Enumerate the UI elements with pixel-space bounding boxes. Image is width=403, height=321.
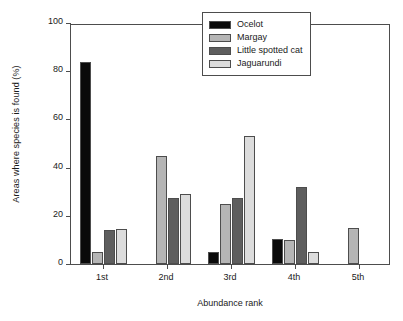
bar-chart-figure: Areas where species is found (%) 0204060… [0,0,403,321]
legend-swatch-icon [209,34,231,42]
x-tick-mark [167,264,168,269]
y-tick-mark [66,168,71,169]
y-tick-label: 40 [53,161,63,171]
x-tick-mark [295,264,296,269]
y-tick-mark [66,23,71,24]
bar [208,252,219,264]
x-tick-mark [103,264,104,269]
bar [80,62,91,264]
y-tick-mark [66,119,71,120]
legend-item-1: Margay [209,31,303,44]
y-tick-mark [66,216,71,217]
x-tick-label: 4th [274,272,314,282]
bar [296,187,307,264]
x-tick-mark [359,264,360,269]
y-tick-label: 100 [48,16,63,26]
x-tick-mark [231,264,232,269]
x-tick-label: 5th [338,272,378,282]
bar [156,156,167,264]
legend-item-label: Margay [237,33,267,42]
y-tick-label: 60 [53,112,63,122]
legend-item-label: Jaguarundi [237,59,282,68]
legend-swatch-icon [209,60,231,68]
chart-legend: OcelotMargayLittle spotted catJaguarundi [202,12,311,76]
bar [244,136,255,264]
bar [308,252,319,264]
legend-item-label: Ocelot [237,20,263,29]
bar [92,252,103,264]
y-tick-label: 20 [53,209,63,219]
bar [220,204,231,264]
bar [232,198,243,264]
x-axis-title: Abundance rank [70,298,390,308]
x-tick-label: 1st [82,272,122,282]
bar [348,228,359,264]
bar [272,239,283,264]
y-axis-title-text: Areas where species is found (%) [11,65,21,202]
y-tick-mark [66,71,71,72]
x-tick-label: 2nd [146,272,186,282]
legend-item-0: Ocelot [209,18,303,31]
legend-item-3: Jaguarundi [209,57,303,70]
legend-swatch-icon [209,21,231,29]
bar [168,198,179,264]
bar [104,230,115,264]
y-tick-label: 0 [58,257,63,267]
bar [180,194,191,264]
bar [116,229,127,264]
y-tick-label: 80 [53,64,63,74]
legend-swatch-icon [209,47,231,55]
legend-item-2: Little spotted cat [209,44,303,57]
y-tick-mark [66,264,71,265]
x-tick-label: 3rd [210,272,250,282]
bar [284,240,295,264]
legend-item-label: Little spotted cat [237,46,303,55]
